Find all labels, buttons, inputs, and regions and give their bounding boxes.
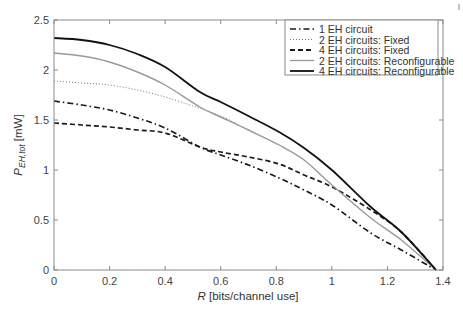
x-tick-label: 1 bbox=[329, 275, 335, 287]
x-axis-label-var: R bbox=[197, 290, 205, 302]
x-axis-label-unit: [bits/channel use] bbox=[206, 290, 299, 302]
series-line-2 bbox=[54, 123, 436, 270]
y-tick-label: 2 bbox=[43, 64, 49, 76]
x-tick-label: 1.2 bbox=[380, 275, 395, 287]
x-tick-label: 0.6 bbox=[213, 275, 228, 287]
chart: 00.20.40.60.811.21.4 00.511.522.5 R [bit… bbox=[0, 0, 463, 312]
legend: 1 EH circuit 2 EH circuits: Fixed 4 EH c… bbox=[285, 20, 455, 77]
x-tick-label: 0 bbox=[51, 275, 57, 287]
x-tick-label: 0.2 bbox=[102, 275, 117, 287]
x-tick-label: 1.4 bbox=[435, 275, 450, 287]
legend-label: 4 EH circuits: Reconfigurable bbox=[319, 65, 455, 77]
y-tick-label: 0 bbox=[43, 264, 49, 276]
y-tick-label: 1.5 bbox=[34, 114, 49, 126]
x-tick-label: 0.8 bbox=[269, 275, 284, 287]
y-axis-label-unit: [mW] bbox=[12, 114, 24, 144]
y-axis-label: PEH,tot [mW] bbox=[12, 114, 27, 175]
y-tick-label: 1 bbox=[43, 164, 49, 176]
x-tick-label: 0.4 bbox=[157, 275, 172, 287]
y-tick-label: 0.5 bbox=[34, 214, 49, 226]
series-line-1 bbox=[54, 81, 237, 124]
y-axis-label-sub: EH,tot bbox=[17, 144, 27, 168]
x-axis-label: R [bits/channel use] bbox=[197, 290, 298, 302]
y-tick-label: 2.5 bbox=[34, 14, 49, 26]
